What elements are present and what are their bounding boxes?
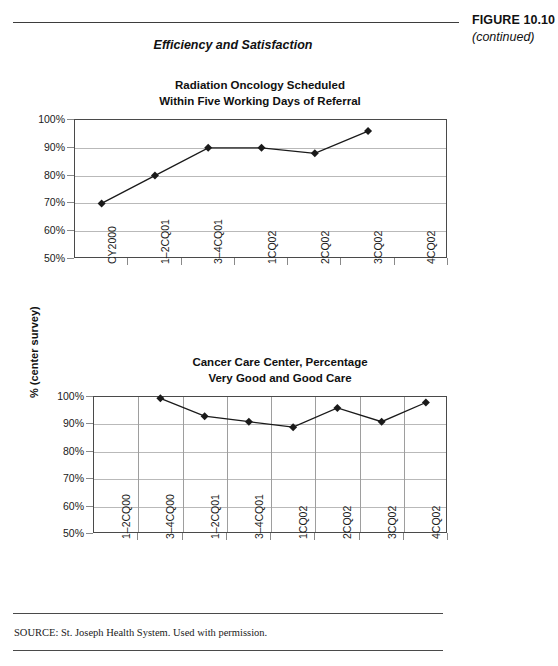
cancer-care-data-point [245, 418, 253, 426]
cancer-care-xtick-mark [226, 533, 227, 540]
cancer-care-ytick-label: 60% [48, 500, 84, 512]
cancer-care-data-point [422, 398, 430, 406]
cancer-care-xtick-label: 3–4CQ00 [164, 494, 176, 539]
cancer-care-title: Cancer Care Center, Percentage Very Good… [80, 355, 480, 386]
cancer-care-xtick-label: 2CQ02 [341, 506, 353, 539]
cancer-care-xtick-label: 3CQ02 [386, 506, 398, 539]
cancer-care-ytick-label: 50% [48, 527, 84, 539]
cancer-care-xtick-label: 1–2CQ00 [120, 494, 132, 539]
cancer-care-ytick-mark [86, 506, 93, 507]
cancer-care-ytick-mark [86, 451, 93, 452]
cancer-care-xtick-mark [137, 533, 138, 540]
cancer-care-xtick-label: 1CQ02 [297, 506, 309, 539]
cancer-care-data-point [289, 423, 297, 431]
cancer-care-ytick-mark [86, 533, 93, 534]
cancer-care-ytick-label: 70% [48, 472, 84, 484]
cancer-care-data-point [378, 418, 386, 426]
cancer-care-xtick-mark [182, 533, 183, 540]
cancer-care-xtick-label: 3–4CQ01 [253, 494, 265, 539]
cancer-care-ytick-label: 90% [48, 417, 84, 429]
cancer-care-data-point [333, 404, 341, 412]
cancer-care-xtick-label: 4CQ02 [430, 506, 442, 539]
figure-page: FIGURE 10.10 (continued) Efficiency and … [0, 0, 558, 666]
cancer-care-xtick-mark [359, 533, 360, 540]
cancer-care-yaxis-title: % (center survey) [28, 306, 40, 398]
chart-cancer-care-center: Cancer Care Center, Percentage Very Good… [0, 0, 558, 666]
cancer-care-series-line [160, 398, 426, 427]
cancer-care-ytick-mark [86, 423, 93, 424]
cancer-care-ytick-label: 100% [48, 390, 84, 402]
cancer-care-xtick-mark [270, 533, 271, 540]
footer-divider-rule-top [13, 613, 443, 614]
source-note: SOURCE: St. Joseph Health System. Used w… [14, 627, 267, 638]
cancer-care-data-point [156, 394, 164, 402]
cancer-care-data-point [201, 412, 209, 420]
cancer-care-xtick-label: 1–2CQ01 [209, 494, 221, 539]
cancer-care-xtick-mark [314, 533, 315, 540]
cancer-care-ytick-mark [86, 478, 93, 479]
cancer-care-xtick-mark [403, 533, 404, 540]
cancer-care-xtick-mark [447, 533, 448, 540]
cancer-care-ytick-mark [86, 396, 93, 397]
cancer-care-ytick-label: 80% [48, 445, 84, 457]
footer-divider-rule-bottom [13, 650, 443, 651]
